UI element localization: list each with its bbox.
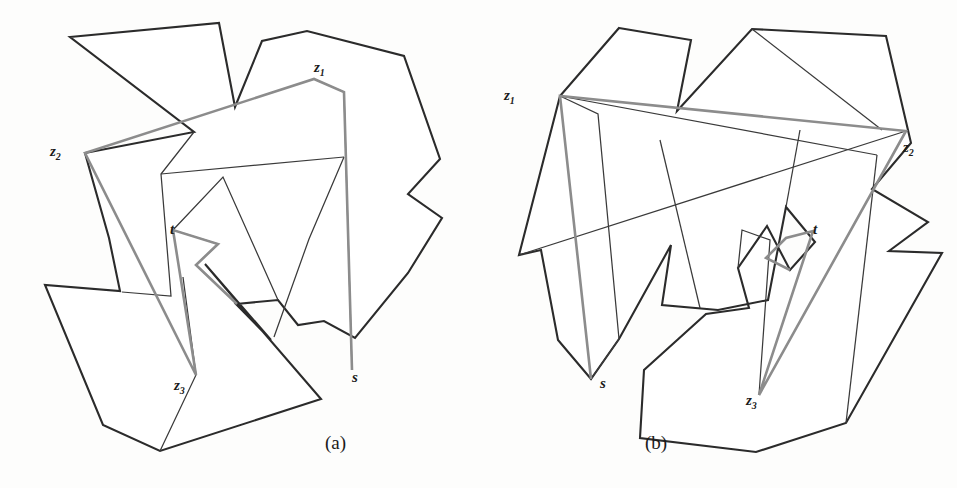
label-b-t: t — [813, 222, 817, 237]
label-a-s: s — [352, 370, 358, 385]
label-a-z3-sub: 3 — [180, 385, 185, 396]
label-b-t-base: t — [813, 221, 817, 237]
panel-a-drawing — [0, 0, 957, 488]
figure-root: z1 z2 z3 t s z1 z2 z3 t s (a) (b) — [0, 0, 957, 488]
label-b-z1: z1 — [504, 88, 515, 106]
label-b-s-base: s — [600, 375, 606, 391]
label-a-t-base: t — [170, 221, 174, 237]
label-b-z1-sub: 1 — [510, 95, 515, 106]
label-b-z3-sub: 3 — [752, 400, 757, 411]
label-b-z2-sub: 2 — [909, 147, 914, 158]
caption-b: (b) — [645, 432, 667, 454]
label-a-z3: z3 — [174, 378, 185, 396]
label-a-t: t — [170, 222, 174, 237]
label-b-s: s — [600, 376, 606, 391]
label-b-z3: z3 — [746, 393, 757, 411]
label-a-s-base: s — [352, 369, 358, 385]
label-a-z2: z2 — [50, 144, 61, 162]
label-a-z1: z1 — [314, 60, 325, 78]
polygon-outline-b — [519, 28, 942, 452]
label-b-z2: z2 — [903, 140, 914, 158]
label-a-z1-sub: 1 — [320, 67, 325, 78]
label-a-z2-sub: 2 — [56, 151, 61, 162]
polygon-outline-a — [45, 23, 442, 451]
caption-a: (a) — [325, 432, 346, 454]
